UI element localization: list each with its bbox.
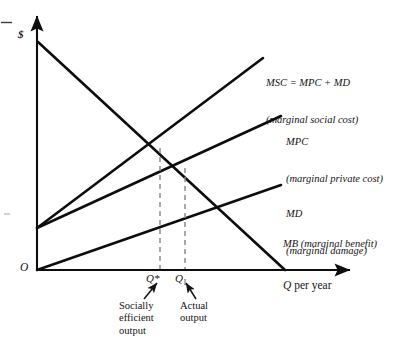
tick-label-q-one: Q1 xyxy=(175,272,187,288)
curve-label-mb: MB (marginal benefit) xyxy=(283,238,377,250)
annotation-actual-output: Actual output xyxy=(180,300,208,325)
tick-label-q-star: Q* xyxy=(146,272,159,285)
curve-label-md-main: MD xyxy=(286,208,367,220)
curve-label-msc-main: MSC = MPC + MD xyxy=(266,77,358,89)
curve-label-md: MD (marginal damage) xyxy=(286,183,367,282)
curve-group xyxy=(37,42,285,270)
y-axis-label: $ xyxy=(18,28,24,41)
curve-mpc xyxy=(37,116,281,228)
tick-label-q-one-base: Q xyxy=(175,272,183,284)
curve-label-mpc-main: MPC xyxy=(286,136,383,148)
curve-md xyxy=(37,185,281,270)
annotation-socially-efficient-output: Socially efficient output xyxy=(119,300,154,337)
arrow-to-q-one xyxy=(186,283,196,299)
tick-label-q-one-subscript: 1 xyxy=(183,278,187,287)
curve-mb xyxy=(38,42,285,270)
origin-label: O xyxy=(20,261,28,275)
externality-diagram: $ O Q per year MSC = MPC + MD (marginal … xyxy=(0,0,407,352)
arrow-to-q-star xyxy=(144,283,157,299)
annotation-arrow-group xyxy=(144,283,196,299)
